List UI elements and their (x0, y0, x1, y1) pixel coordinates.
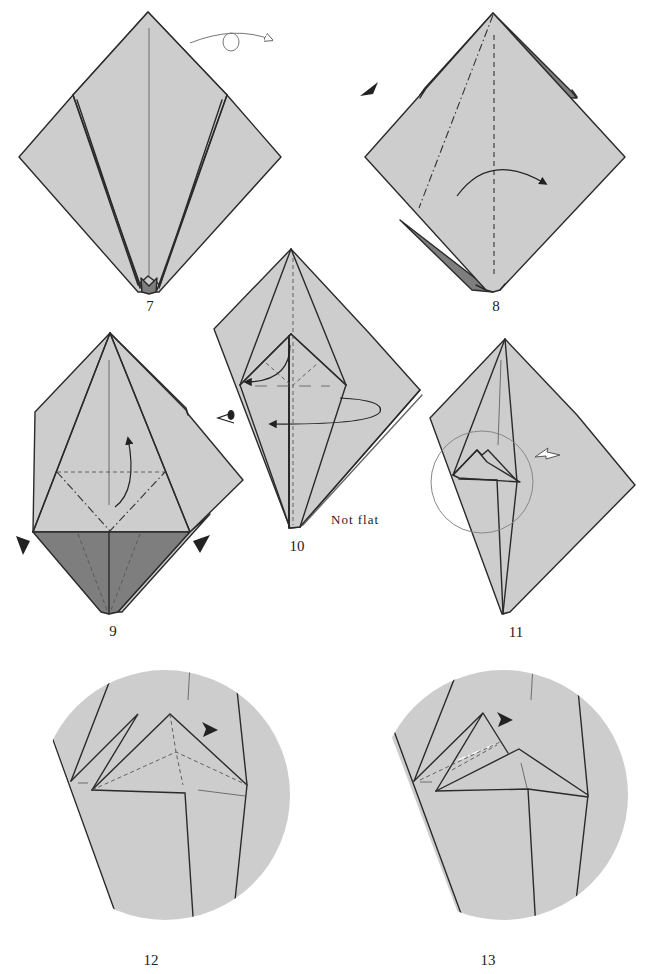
step-number-8: 8 (476, 298, 516, 315)
push-arrowhead-icon (360, 82, 378, 96)
step-9-diagram (16, 333, 243, 614)
step-number-13: 13 (468, 952, 508, 969)
step-8-diagram (360, 13, 625, 292)
step-number-9: 9 (93, 623, 133, 640)
step-10-diagram (214, 249, 422, 528)
step-number-12: 12 (131, 952, 171, 969)
step-7-diagram (19, 12, 281, 294)
step-10-note: Not flat (331, 512, 379, 528)
push-arrowhead-left-icon (16, 536, 30, 555)
push-arrowhead-right-icon (193, 535, 210, 553)
step-number-11: 11 (496, 624, 536, 641)
step-number-7: 7 (130, 298, 170, 315)
step-number-10: 10 (277, 538, 317, 555)
step-13-diagram (378, 650, 640, 945)
turn-over-arrow-icon (190, 33, 272, 51)
view-eye-icon (218, 410, 235, 423)
step-11-diagram (430, 339, 635, 614)
reverse-side-section (33, 532, 190, 614)
step-12-diagram (40, 650, 300, 945)
origami-diagram-page (0, 0, 655, 974)
